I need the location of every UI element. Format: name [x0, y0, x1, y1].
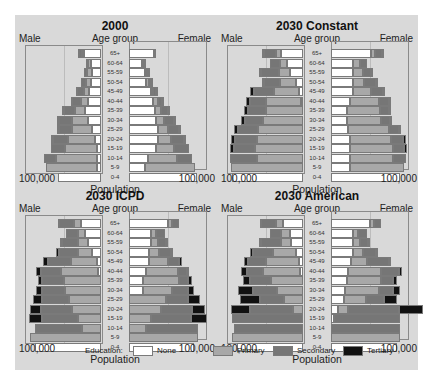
age-label: 15-19 [304, 144, 330, 153]
male-bar-primary [81, 97, 88, 106]
age-label: 60-64 [102, 229, 128, 238]
female-bar-none [129, 125, 158, 134]
female-bar-none [331, 68, 353, 77]
male-bar-tertiary [51, 135, 54, 144]
pyramid-2000: 2000Male Age group Female65+60-6455-5950… [15, 15, 215, 187]
legend-item-secondary: Secondary [273, 345, 335, 357]
female-bar-tertiary [187, 267, 190, 276]
female-bar-secondary [146, 324, 198, 333]
male-bar-tertiary [241, 267, 247, 276]
male-bar-tertiary [57, 116, 59, 125]
male-bar-primary [266, 257, 299, 266]
male-bar-none [281, 49, 303, 58]
female-bar-tertiary [376, 248, 378, 257]
age-label: 55-59 [304, 68, 330, 77]
male-bar-secondary [254, 87, 274, 96]
female-bar-none [331, 97, 350, 106]
male-bar-primary [276, 49, 282, 58]
age-label: 20-24 [304, 135, 330, 144]
male-bar-secondary [238, 125, 258, 134]
male-bar-secondary [261, 68, 278, 77]
female-bar-primary [148, 154, 177, 163]
male-bar-none [299, 257, 303, 266]
male-bar-primary [255, 144, 303, 153]
female-bar-primary [350, 97, 379, 106]
female-bar-secondary [360, 59, 367, 68]
male-bar-secondary [234, 324, 303, 333]
female-bar-none [129, 163, 145, 172]
female-bar-tertiary [174, 116, 176, 125]
female-bar-none [129, 229, 151, 238]
female-bar-secondary [174, 144, 190, 153]
male-bar-tertiary [36, 286, 42, 295]
female-bar-tertiary [179, 125, 181, 134]
female-bar-none [331, 267, 348, 276]
female-bar-tertiary [399, 267, 402, 276]
male-bar-tertiary [244, 106, 248, 115]
male-bar-tertiary [62, 106, 64, 115]
male-bar-primary [56, 154, 98, 163]
female-bar-secondary [164, 116, 174, 125]
female-bar-tertiary [156, 87, 158, 96]
female-bar-secondary [168, 257, 180, 266]
female-bar-secondary [393, 144, 405, 153]
male-bar-secondary [261, 219, 275, 228]
male-bar-none [97, 257, 101, 266]
male-bar-none [88, 238, 101, 247]
male-bar-tertiary [60, 238, 62, 247]
male-bar-primary [293, 305, 303, 314]
female-bar-tertiary [166, 238, 168, 247]
female-bar-none [129, 97, 153, 106]
male-bar-none [95, 135, 101, 144]
male-bar-primary [78, 238, 88, 247]
age-label: 45-49 [102, 87, 128, 96]
female-bar-secondary [168, 125, 180, 134]
female-bar-primary [129, 295, 166, 304]
male-bar-secondary [35, 324, 83, 333]
age-label: 50-54 [304, 78, 330, 87]
female-bar-secondary [393, 154, 406, 163]
female-bar-secondary [177, 154, 191, 163]
female-bar-primary [158, 135, 171, 144]
male-bar-primary [82, 324, 101, 333]
male-bar-secondary [260, 295, 284, 304]
male-bar-secondary [248, 106, 265, 115]
age-label: 10-14 [102, 154, 128, 163]
male-bar-secondary [72, 97, 81, 106]
female-bar-primary [348, 125, 388, 134]
male-bar-tertiary [36, 267, 40, 276]
legend-title: Education: [85, 345, 123, 357]
male-bar-secondary [48, 257, 71, 266]
male-bar-secondary [59, 248, 78, 257]
female-bar-tertiary [151, 78, 153, 87]
female-bar-tertiary [179, 257, 182, 266]
female-bar-none [331, 49, 371, 58]
female-bar-primary [149, 257, 168, 266]
female-bar-secondary [363, 248, 376, 257]
male-bar-primary [263, 267, 300, 276]
pyramid-2030-constant: 2030 ConstantMale Age group Female65+60-… [217, 15, 417, 187]
age-label: 65+ [102, 219, 128, 228]
male-bar-primary [78, 229, 85, 238]
panel-title: 2030 American [217, 189, 417, 203]
female-bar-none [331, 59, 353, 68]
male-bar-secondary [250, 276, 272, 285]
female-bar-primary [156, 116, 163, 125]
male-bar-none [97, 154, 101, 163]
female-bar-secondary [159, 248, 171, 257]
legend-swatch-secondary [273, 346, 293, 356]
female-bar-tertiary [188, 276, 192, 285]
male-bar-tertiary [230, 144, 234, 153]
age-label: 25-29 [102, 295, 128, 304]
male-bar-secondary [81, 78, 86, 87]
age-label: 65+ [304, 49, 330, 58]
male-bar-secondary [42, 295, 69, 304]
male-bar-primary [72, 116, 88, 125]
age-label: 10-14 [304, 324, 330, 333]
female-bar-secondary [360, 238, 369, 247]
male-bar-secondary [270, 229, 282, 238]
male-bar-primary [65, 286, 101, 295]
male-bar-primary [68, 135, 95, 144]
male-bar-primary [266, 106, 303, 115]
female-bar-primary [353, 59, 360, 68]
